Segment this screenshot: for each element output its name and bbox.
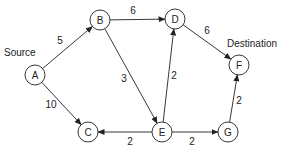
node-c: C bbox=[78, 122, 98, 142]
node-a: A bbox=[25, 65, 45, 85]
edge-weight-e-d: 2 bbox=[171, 70, 177, 81]
node-label: B bbox=[97, 15, 104, 26]
node-label: F bbox=[236, 60, 242, 71]
edge-b-d bbox=[110, 19, 165, 20]
edge-weight-a-b: 5 bbox=[57, 35, 63, 46]
edge-weight-a-c: 10 bbox=[45, 99, 57, 110]
node-f: F bbox=[229, 55, 249, 75]
edge-a-b bbox=[43, 26, 93, 68]
graph-canvas: 5106362222 ABCDEFG Source Destination bbox=[0, 0, 295, 156]
source-label: Source bbox=[4, 47, 36, 58]
edges-layer: 5106362222 bbox=[42, 5, 242, 147]
destination-label: Destination bbox=[227, 38, 277, 49]
node-e: E bbox=[152, 122, 172, 142]
node-label: E bbox=[159, 127, 166, 138]
node-label: A bbox=[32, 70, 39, 81]
edge-weight-b-d: 6 bbox=[130, 5, 136, 16]
edge-weight-d-f: 6 bbox=[204, 25, 210, 36]
edge-weight-g-f: 2 bbox=[236, 95, 242, 106]
nodes-layer: ABCDEFG bbox=[25, 9, 249, 142]
edge-b-e bbox=[105, 29, 157, 124]
node-g: G bbox=[218, 122, 238, 142]
edge-weight-b-e: 3 bbox=[121, 73, 127, 84]
node-b: B bbox=[90, 10, 110, 30]
edge-weight-e-c: 2 bbox=[127, 136, 133, 147]
node-label: D bbox=[171, 14, 178, 25]
node-label: C bbox=[84, 127, 91, 138]
node-label: G bbox=[224, 127, 232, 138]
node-d: D bbox=[165, 9, 185, 29]
edge-weight-e-g: 2 bbox=[189, 136, 195, 147]
graph-diagram: 5106362222 ABCDEFG Source Destination bbox=[0, 0, 295, 156]
